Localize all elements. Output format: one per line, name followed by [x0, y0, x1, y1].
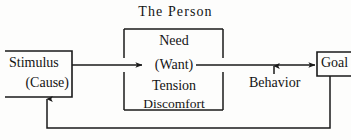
flow-diagram: The Person Stimulus (Cause) Need (Want) … [0, 0, 351, 140]
person-label-discomfort: Discomfort [125, 97, 223, 111]
diagram-title: The Person [0, 5, 351, 19]
goal-label: Goal [321, 56, 348, 70]
person-label-need: Need [125, 34, 223, 48]
stimulus-label-line1: Stimulus [9, 56, 59, 70]
person-label-want: (Want) [125, 58, 223, 72]
stimulus-label-line2: (Cause) [5, 76, 69, 90]
person-label-tension: Tension [125, 79, 223, 93]
behavior-label: Behavior [249, 76, 300, 90]
